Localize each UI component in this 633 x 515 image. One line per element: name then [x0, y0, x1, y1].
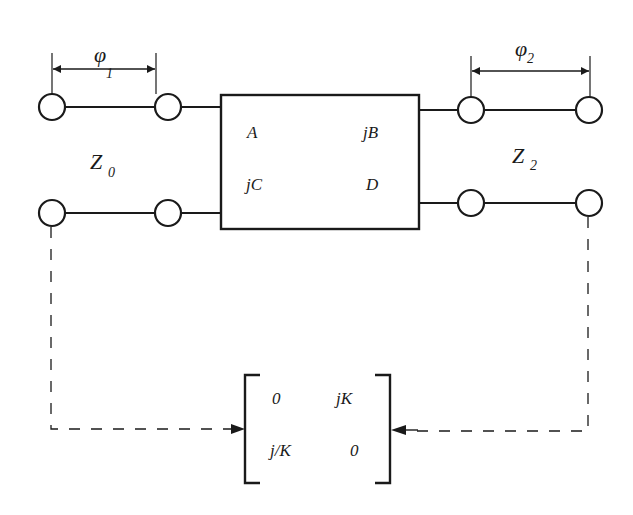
equivalence-connectors [51, 217, 588, 435]
left-bracket [245, 375, 260, 483]
abcd-b: jB [361, 123, 379, 142]
abcd-d: D [365, 175, 379, 194]
phi2-label: φ [515, 36, 527, 61]
phi2-subscript: 2 [527, 51, 534, 66]
left-dashed-connector [51, 227, 236, 429]
phi1-label: φ [94, 42, 106, 67]
right-dashed-connector [405, 217, 588, 431]
right-arrowhead-icon [391, 425, 406, 435]
matrix-r2c1: j/K [268, 441, 292, 460]
abcd-a: A [246, 123, 258, 142]
terminal-circle-icon [39, 94, 65, 120]
terminal-circle-icon [576, 190, 602, 216]
abcd-c: jC [244, 175, 263, 194]
z2-label: Z [512, 143, 525, 168]
matrix-r1c1: 0 [272, 389, 281, 408]
matrix-r1c2: jK [334, 389, 354, 408]
terminal-circle-icon [458, 190, 484, 216]
z0-label: Z [90, 149, 103, 174]
terminal-circle-icon [155, 200, 181, 226]
z2-subscript: 2 [530, 158, 537, 173]
terminal-circle-icon [39, 200, 65, 226]
phi1-subscript: 1 [106, 66, 113, 81]
circuit-diagram: φ 1 Z 0 A jB jC D φ 2 Z 2 [0, 0, 633, 515]
matrix-r2c2: 0 [350, 441, 359, 460]
terminal-circle-icon [458, 97, 484, 123]
left-arrowhead-icon [231, 424, 245, 434]
terminal-circle-icon [576, 97, 602, 123]
right-line-section: φ 2 Z 2 [419, 36, 602, 216]
z0-subscript: 0 [108, 165, 115, 180]
inverter-matrix: 0 jK j/K 0 [245, 375, 390, 483]
abcd-network-box: A jB jC D [221, 95, 419, 229]
abcd-box [221, 95, 419, 229]
right-bracket [375, 375, 390, 483]
terminal-circle-icon [155, 94, 181, 120]
left-line-section: φ 1 Z 0 [39, 42, 221, 226]
